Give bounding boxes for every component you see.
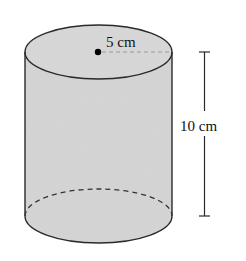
height-dimension [199, 52, 210, 216]
cylinder-body [25, 25, 172, 243]
center-point [95, 49, 101, 55]
radius-label: 5 cm [106, 34, 136, 50]
cylinder-diagram: 5 cm 10 cm [0, 0, 246, 261]
height-label: 10 cm [180, 118, 217, 134]
